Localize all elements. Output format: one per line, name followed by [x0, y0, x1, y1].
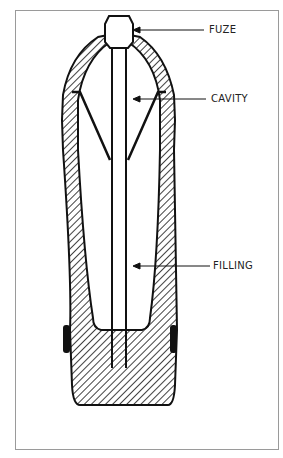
- fuze: [105, 16, 133, 48]
- rotating-band-left: [63, 325, 70, 353]
- label-fuze: FUZE: [209, 24, 236, 35]
- rotating-band-right: [170, 325, 177, 353]
- label-cavity: CAVITY: [211, 93, 248, 104]
- shell-body: [62, 35, 177, 405]
- label-filling: FILLING: [213, 260, 253, 271]
- projectile-cross-section: [0, 0, 283, 458]
- fuze-arrow-icon: [133, 27, 140, 33]
